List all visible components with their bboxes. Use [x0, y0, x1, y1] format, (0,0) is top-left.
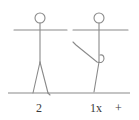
- figure-1-head: [35, 13, 45, 23]
- figure-1-left-leg: [33, 62, 40, 93]
- figure-2-leg: [94, 62, 99, 92]
- figure-2-label: 1x: [90, 102, 102, 114]
- figure-1: [14, 13, 67, 95]
- figure-2-head: [94, 13, 104, 23]
- figure-2: [73, 13, 128, 92]
- figure-1-label: 2: [36, 102, 42, 114]
- figure-1-right-leg: [40, 62, 48, 93]
- plus-symbol: +: [115, 102, 122, 114]
